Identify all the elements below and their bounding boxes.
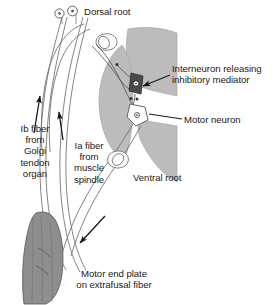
label-motor-neuron: Motor neuron <box>184 114 240 125</box>
dorsal-root-structure <box>96 34 117 51</box>
reflex-arc-diagram: Dorsal root Interneuron releasing inhibi… <box>0 0 275 305</box>
label-ib-fiber: Ib fiber from Golgi tendon organ <box>6 123 64 179</box>
label-ventral-root: Ventral root <box>133 172 181 183</box>
label-interneuron: Interneuron releasing inhibitory mediato… <box>172 63 262 85</box>
label-dorsal-root: Dorsal root <box>84 6 130 17</box>
efferent-arrow <box>80 216 105 243</box>
motor-neuron-leader <box>149 114 182 119</box>
label-motor-end-plate: Motor end plate on extrafusal fiber <box>48 268 180 290</box>
label-ia-fiber: Ia fiber from muscle spindle <box>62 140 116 185</box>
